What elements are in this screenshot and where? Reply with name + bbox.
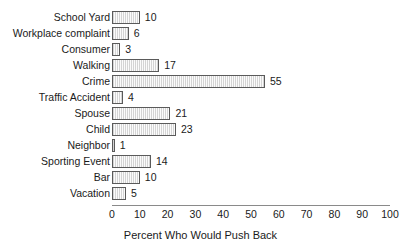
x-axis-line [112, 205, 390, 206]
bar-value-label: 17 [164, 59, 176, 72]
category-label: School Yard [0, 10, 110, 25]
bar-value-label: 23 [181, 123, 193, 136]
category-label: Workplace complaint [0, 26, 110, 41]
bar-row: Vacation5 [0, 186, 401, 201]
bar [112, 171, 140, 184]
category-label: Child [0, 122, 110, 137]
bar-value-label: 10 [145, 171, 157, 184]
bar-value-label: 4 [128, 91, 134, 104]
bar-value-label: 1 [120, 139, 126, 152]
bar-row: Traffic Accident4 [0, 90, 401, 105]
category-label: Spouse [0, 106, 110, 121]
bar-row: Crime55 [0, 74, 401, 89]
bar [112, 59, 159, 72]
bar [112, 91, 123, 104]
bar-row: School Yard10 [0, 10, 401, 25]
bar [112, 155, 151, 168]
category-label: Crime [0, 74, 110, 89]
category-label: Walking [0, 58, 110, 73]
bar-row: Spouse21 [0, 106, 401, 121]
category-label: Neighbor [0, 138, 110, 153]
bar-row: Neighbor1 [0, 138, 401, 153]
bar [112, 75, 265, 88]
bar-value-label: 10 [145, 11, 157, 24]
bar [112, 139, 115, 152]
category-label: Vacation [0, 186, 110, 201]
bar-row: Child23 [0, 122, 401, 137]
bar-row: Walking17 [0, 58, 401, 73]
bar-row: Workplace complaint6 [0, 26, 401, 41]
category-label: Traffic Accident [0, 90, 110, 105]
bar-value-label: 3 [125, 43, 131, 56]
bar-value-label: 14 [156, 155, 168, 168]
bar-row: Consumer3 [0, 42, 401, 57]
category-label: Consumer [0, 42, 110, 57]
bar-value-label: 6 [134, 27, 140, 40]
bar [112, 43, 120, 56]
bar-value-label: 55 [270, 75, 282, 88]
bar [112, 27, 129, 40]
bar-value-label: 21 [175, 107, 187, 120]
bar-value-label: 5 [131, 187, 137, 200]
x-axis-title: Percent Who Would Push Back [0, 228, 401, 243]
bar [112, 11, 140, 24]
bar [112, 187, 126, 200]
bar-row: Bar10 [0, 170, 401, 185]
bar [112, 107, 170, 120]
category-label: Sporting Event [0, 154, 110, 169]
bar-row: Sporting Event14 [0, 154, 401, 169]
bar [112, 123, 176, 136]
category-label: Bar [0, 170, 110, 185]
bar-chart: School Yard10Workplace complaint6Consume… [0, 0, 401, 251]
x-axis-tick-label: 100 [370, 207, 401, 222]
